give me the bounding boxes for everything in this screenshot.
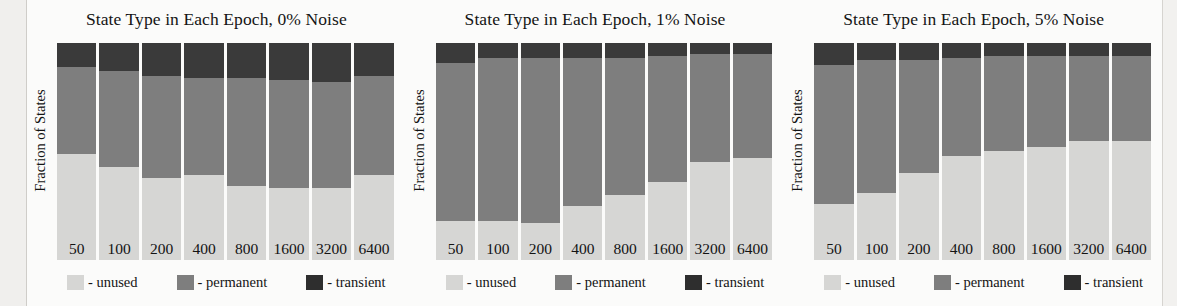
stacked-bar: 800: [984, 43, 1023, 260]
bar-segment-unused: [648, 182, 687, 260]
bar-segment-transient: [857, 43, 896, 60]
bar-segment-transient: [984, 43, 1023, 56]
stacked-bar: 6400: [1112, 43, 1151, 260]
stacked-bar: 400: [563, 43, 602, 260]
bar-segment-unused: [354, 175, 393, 260]
bar-segment-permanent: [436, 63, 475, 221]
legend-swatch-transient: [1064, 275, 1081, 290]
stacked-bar: 1600: [1027, 43, 1066, 260]
stacked-bar: 6400: [733, 43, 772, 260]
chart-panel-5-noise: State Type in Each Epoch, 5% Noise Fract…: [784, 0, 1163, 306]
legend-label-permanent: - permanent: [576, 274, 646, 291]
stacked-bar: 800: [605, 43, 644, 260]
bar-segment-transient: [521, 43, 560, 58]
bar-segment-permanent: [521, 58, 560, 223]
bar-segment-transient: [436, 43, 475, 63]
legend-label-unused: - unused: [467, 274, 517, 291]
bar-segment-unused: [142, 178, 181, 260]
figure-page: State Type in Each Epoch, 0% Noise Fract…: [0, 0, 1177, 306]
bar-segment-unused: [814, 204, 853, 260]
stacked-bar: 1600: [648, 43, 687, 260]
stacked-bar: 200: [142, 43, 181, 260]
plot-area: 50100200400800160032006400: [57, 43, 394, 260]
bar-segment-transient: [354, 43, 393, 76]
bar-segment-unused: [1069, 141, 1108, 260]
legend-label-transient: - transient: [706, 274, 764, 291]
bar-segment-permanent: [99, 71, 138, 166]
bar-segment-transient: [814, 43, 853, 65]
bar-segment-unused: [436, 221, 475, 260]
bar-segment-transient: [57, 43, 96, 67]
legend-swatch-permanent: [555, 275, 572, 290]
bar-segment-unused: [857, 193, 896, 260]
page-edge-left: [0, 0, 27, 306]
y-axis-label-text: Fraction of States: [789, 89, 806, 191]
legend-swatch-unused: [824, 275, 841, 290]
bar-segment-permanent: [563, 58, 602, 206]
bar-segment-unused: [1027, 147, 1066, 260]
legend-item-transient: - transient: [306, 274, 385, 291]
bar-segment-transient: [269, 43, 308, 80]
y-axis-label: Fraction of States: [408, 40, 430, 240]
stacked-bar: 100: [478, 43, 517, 260]
legend-item-transient: - transient: [685, 274, 764, 291]
bar-segment-transient: [184, 43, 223, 78]
stacked-bar: 1600: [269, 43, 308, 260]
legend-swatch-permanent: [934, 275, 951, 290]
chart-panel-0-noise: State Type in Each Epoch, 0% Noise Fract…: [27, 0, 406, 306]
bar-segment-unused: [733, 158, 772, 260]
legend-label-transient: - transient: [1085, 274, 1143, 291]
legend-label-permanent: - permanent: [198, 274, 268, 291]
legend-swatch-unused: [446, 275, 463, 290]
stacked-bar: 6400: [354, 43, 393, 260]
legend-item-permanent: - permanent: [555, 274, 646, 291]
bar-segment-transient: [605, 43, 644, 58]
bar-segment-unused: [269, 188, 308, 260]
bar-segment-permanent: [690, 54, 729, 163]
chart-title: State Type in Each Epoch, 1% Noise: [406, 9, 785, 30]
bar-segment-permanent: [142, 76, 181, 178]
legend-swatch-transient: [685, 275, 702, 290]
stacked-bar: 50: [814, 43, 853, 260]
bar-segment-permanent: [733, 54, 772, 158]
stacked-bar: 800: [227, 43, 266, 260]
bar-segment-permanent: [1069, 56, 1108, 141]
stacked-bar: 100: [857, 43, 896, 260]
bar-segment-unused: [984, 151, 1023, 260]
stacked-bar: 400: [184, 43, 223, 260]
bar-segment-transient: [227, 43, 266, 78]
chart-legend: - unused- permanent- transient: [818, 272, 1149, 292]
legend-swatch-unused: [67, 275, 84, 290]
bar-segment-transient: [899, 43, 938, 60]
bar-segment-permanent: [478, 58, 517, 221]
stacked-bar: 50: [436, 43, 475, 260]
bar-segment-permanent: [899, 60, 938, 173]
bar-segment-transient: [690, 43, 729, 54]
legend-swatch-transient: [306, 275, 323, 290]
bar-segment-unused: [99, 167, 138, 260]
bar-segment-transient: [1027, 43, 1066, 56]
bar-segment-permanent: [814, 65, 853, 204]
bar-segment-unused: [942, 156, 981, 260]
bar-segment-unused: [521, 223, 560, 260]
bar-segment-unused: [1112, 141, 1151, 260]
bar-segment-transient: [1069, 43, 1108, 56]
bar-segment-permanent: [605, 58, 644, 195]
bar-segment-unused: [478, 221, 517, 260]
legend-item-unused: - unused: [446, 274, 517, 291]
legend-swatch-permanent: [177, 275, 194, 290]
stacked-bar: 200: [899, 43, 938, 260]
legend-item-unused: - unused: [824, 274, 895, 291]
chart-title: State Type in Each Epoch, 0% Noise: [27, 9, 406, 30]
legend-label-permanent: - permanent: [955, 274, 1025, 291]
bar-segment-unused: [312, 188, 351, 260]
bar-segment-transient: [312, 43, 351, 82]
plot-area: 50100200400800160032006400: [814, 43, 1151, 260]
legend-label-unused: - unused: [88, 274, 138, 291]
y-axis-label: Fraction of States: [786, 40, 808, 240]
bar-segment-permanent: [312, 82, 351, 188]
legend-label-unused: - unused: [845, 274, 895, 291]
bar-segment-transient: [942, 43, 981, 58]
chart-title: State Type in Each Epoch, 5% Noise: [784, 9, 1163, 30]
legend-item-transient: - transient: [1064, 274, 1143, 291]
